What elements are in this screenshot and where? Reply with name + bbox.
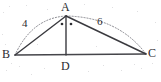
vertex-label-C: C [148, 47, 156, 59]
vertex-label-B: B [2, 48, 10, 60]
angle-DAC-mark-icon [70, 23, 73, 26]
length-label-AC: 6 [97, 16, 103, 27]
vertex-label-D: D [61, 60, 70, 72]
figure-canvas [0, 0, 161, 82]
vertex-label-A: A [61, 1, 70, 13]
length-label-AB: 4 [22, 18, 28, 29]
segment-AC [66, 16, 146, 54]
angle-BAD-mark-icon [61, 23, 64, 26]
segment-BC [15, 54, 146, 55]
geometry-diagram: A B C D 4 6 [0, 0, 161, 82]
